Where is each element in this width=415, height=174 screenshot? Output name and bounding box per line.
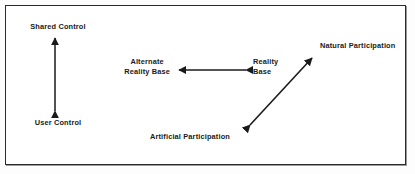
node-line: Alternate [124,57,170,67]
node-line: User Control [35,118,82,128]
node-label-natural-participation: Natural Participation [320,41,395,51]
node-line: Base [253,67,278,77]
node-line: Reality Base [124,67,170,77]
node-line: Natural Participation [320,41,395,51]
node-label-shared-control: Shared Control [30,22,85,32]
node-line: Artificial Participation [150,132,230,142]
node-line: Reality [253,57,278,67]
diagram-canvas: Shared Control User Control Alternate Re… [0,0,415,174]
node-label-user-control: User Control [35,118,82,128]
node-line: Shared Control [30,22,85,32]
node-label-artificial-participation: Artificial Participation [150,132,230,142]
node-label-alternate-reality-base: Alternate Reality Base [124,57,170,76]
node-label-reality-base: Reality Base [253,57,278,76]
